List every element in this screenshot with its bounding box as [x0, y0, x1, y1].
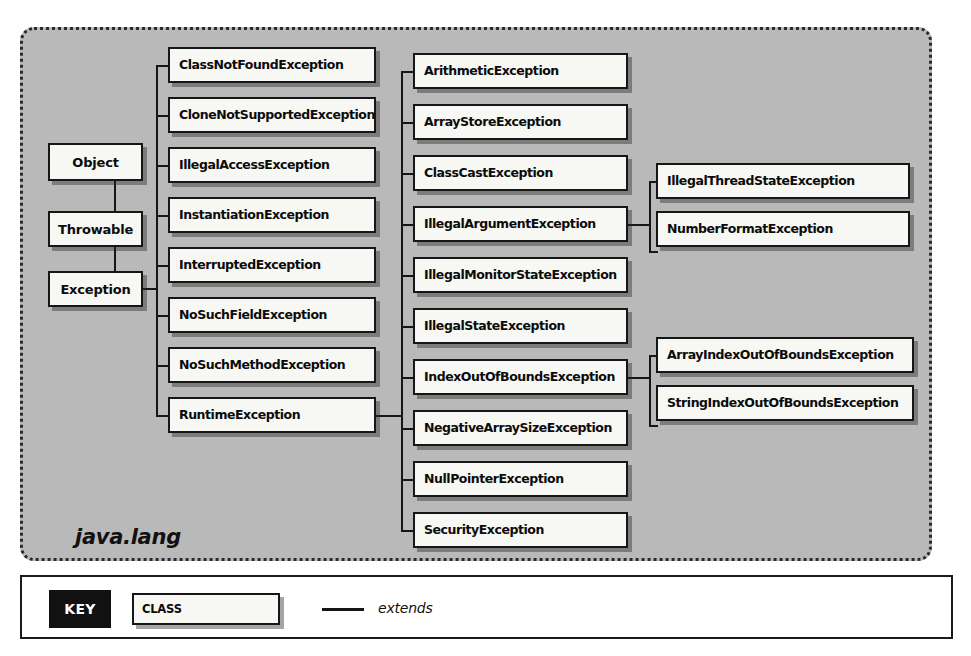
- class-box-stringindexoutofboundsexception[interactable]: StringIndexOutOfBoundsException: [656, 385, 914, 421]
- class-label: CloneNotSupportedException: [170, 109, 375, 122]
- key-badge-label: KEY: [64, 601, 95, 617]
- class-label: NegativeArraySizeException: [415, 422, 612, 435]
- class-box-exception[interactable]: Exception: [48, 271, 143, 307]
- key-legend-panel: KEY CLASS extends: [20, 575, 953, 639]
- class-box-object[interactable]: Object: [48, 143, 143, 181]
- class-label: InterruptedException: [170, 259, 321, 272]
- class-box-nosuchmethodexception[interactable]: NoSuchMethodException: [168, 347, 376, 383]
- class-label: IllegalThreadStateException: [658, 175, 855, 188]
- class-label: ArrayIndexOutOfBoundsException: [658, 349, 894, 362]
- class-box-runtimeexception[interactable]: RuntimeException: [168, 397, 376, 433]
- class-box-numberformatexception[interactable]: NumberFormatException: [656, 211, 910, 247]
- connector-exception-trunk-lower: [156, 288, 158, 415]
- class-box-arraystoreexception[interactable]: ArrayStoreException: [413, 104, 628, 140]
- package-name-label: java.lang: [75, 525, 181, 549]
- class-label: NullPointerException: [415, 473, 564, 486]
- class-label: IllegalAccessException: [170, 159, 330, 172]
- class-box-indexoutofboundsexception[interactable]: IndexOutOfBoundsException: [413, 359, 628, 395]
- class-box-negativearraysizeexception[interactable]: NegativeArraySizeException: [413, 410, 628, 446]
- class-label: Exception: [50, 283, 141, 296]
- class-label: IllegalArgumentException: [415, 218, 596, 231]
- class-box-arrayindexoutofboundsexception[interactable]: ArrayIndexOutOfBoundsException: [656, 337, 914, 373]
- class-box-throwable[interactable]: Throwable: [48, 211, 143, 247]
- class-box-instantiationexception[interactable]: InstantiationException: [168, 197, 376, 233]
- class-box-illegalmonitorstateexception[interactable]: IllegalMonitorStateException: [413, 257, 628, 293]
- class-box-securityexception[interactable]: SecurityException: [413, 512, 628, 548]
- class-label: IllegalMonitorStateException: [415, 269, 617, 282]
- key-extends-label: extends: [378, 600, 433, 616]
- class-label: Object: [50, 156, 141, 169]
- class-label: StringIndexOutOfBoundsException: [658, 397, 898, 410]
- class-label: RuntimeException: [170, 409, 300, 422]
- connector-indexoutofbounds-trunk: [649, 355, 651, 427]
- connector-stub-stringindexoutofbounds: [649, 425, 658, 427]
- class-box-classnotfoundexception[interactable]: ClassNotFoundException: [168, 47, 376, 83]
- diagram-canvas: Object Throwable Exception ClassNotFound…: [0, 0, 971, 656]
- class-label: InstantiationException: [170, 209, 329, 222]
- key-class-sample-box: CLASS: [132, 593, 280, 625]
- class-box-classcastexception[interactable]: ClassCastException: [413, 155, 628, 191]
- class-label: ClassNotFoundException: [170, 59, 343, 72]
- class-label: NoSuchMethodException: [170, 359, 345, 372]
- connector-illegalargument-stub: [628, 224, 650, 226]
- class-box-illegalaccessexception[interactable]: IllegalAccessException: [168, 147, 376, 183]
- connector-exception-trunk: [156, 65, 158, 289]
- key-badge: KEY: [49, 590, 111, 628]
- connector-runtime-stub: [376, 415, 402, 417]
- key-extends-line-icon: [322, 608, 364, 611]
- connector-illegalargument-trunk: [649, 181, 651, 253]
- class-label: NoSuchFieldException: [170, 309, 327, 322]
- class-label: IndexOutOfBoundsException: [415, 371, 615, 384]
- class-box-illegalthreadstateexception[interactable]: IllegalThreadStateException: [656, 163, 910, 199]
- class-label: ArithmeticException: [415, 65, 559, 78]
- connector-exception-stub: [143, 288, 157, 290]
- class-label: Throwable: [50, 223, 141, 236]
- class-label: IllegalStateException: [415, 320, 565, 333]
- class-label: ArrayStoreException: [415, 116, 561, 129]
- class-box-illegalstateexception[interactable]: IllegalStateException: [413, 308, 628, 344]
- class-label: SecurityException: [415, 524, 544, 537]
- key-class-label: CLASS: [134, 602, 182, 616]
- package-panel-java-lang: Object Throwable Exception ClassNotFound…: [20, 27, 932, 561]
- connector-runtime-trunk-lower: [401, 415, 403, 530]
- class-box-nosuchfieldexception[interactable]: NoSuchFieldException: [168, 297, 376, 333]
- class-box-clonenotsupportedexception[interactable]: CloneNotSupportedException: [168, 97, 376, 133]
- class-label: ClassCastException: [415, 167, 553, 180]
- class-box-interruptedexception[interactable]: InterruptedException: [168, 247, 376, 283]
- class-box-nullpointerexception[interactable]: NullPointerException: [413, 461, 628, 497]
- class-box-illegalargumentexception[interactable]: IllegalArgumentException: [413, 206, 628, 242]
- connector-indexoutofbounds-stub: [628, 377, 650, 379]
- connector-stub-numberformat: [649, 251, 658, 253]
- class-label: NumberFormatException: [658, 223, 833, 236]
- class-box-arithmeticexception[interactable]: ArithmeticException: [413, 53, 628, 89]
